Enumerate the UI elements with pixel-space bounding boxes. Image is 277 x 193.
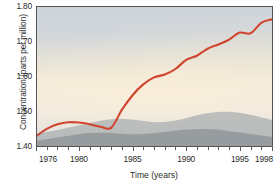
x-tick-mark — [229, 146, 230, 150]
x-tick-mark — [165, 146, 166, 150]
x-tick-mark — [261, 146, 262, 150]
x-tick-mark — [79, 146, 80, 151]
x-axis-ticks — [36, 146, 272, 152]
x-tick-label: 1980 — [70, 154, 88, 164]
axis-right-spine — [272, 6, 273, 147]
x-tick-mark — [240, 146, 241, 151]
series-line-path — [36, 19, 272, 136]
x-tick-label: 1976 — [39, 154, 57, 164]
x-tick-label: 1985 — [124, 154, 142, 164]
y-tick-label: 1.50 — [16, 106, 32, 116]
x-tick-mark — [186, 146, 187, 151]
x-axis-tick-labels: 197619801985199019951998 — [36, 154, 272, 168]
x-tick-label: 1998 — [255, 154, 273, 164]
axis-top-spine — [36, 6, 273, 7]
y-tick-label: 1.40 — [16, 141, 32, 151]
x-axis-title: Time (years) — [36, 170, 272, 180]
x-tick-mark — [197, 146, 198, 150]
y-tick-label: 1.60 — [16, 71, 32, 81]
x-tick-mark — [36, 146, 37, 151]
x-tick-label: 1990 — [177, 154, 195, 164]
y-tick-label: 1.80 — [16, 1, 32, 11]
x-tick-mark — [122, 146, 123, 150]
plot-area — [36, 6, 272, 146]
x-tick-mark — [251, 146, 252, 150]
x-tick-mark — [175, 146, 176, 150]
y-tick-label: 1.70 — [16, 36, 32, 46]
x-tick-mark — [208, 146, 209, 150]
x-tick-mark — [133, 146, 134, 151]
x-tick-label: 1995 — [231, 154, 249, 164]
x-tick-mark — [57, 146, 58, 150]
x-tick-mark — [68, 146, 69, 150]
y-axis-tick-labels: 1.401.501.601.701.80 — [0, 0, 36, 193]
x-tick-mark — [47, 146, 48, 150]
x-tick-mark — [100, 146, 101, 150]
axis-left-spine — [36, 6, 37, 147]
chart-figure: Concentration (parts per million) 1.401.… — [0, 0, 277, 193]
x-tick-mark — [90, 146, 91, 150]
x-tick-mark — [143, 146, 144, 150]
x-tick-mark — [272, 146, 273, 151]
x-tick-mark — [154, 146, 155, 150]
x-tick-mark — [218, 146, 219, 150]
data-series-line — [36, 6, 272, 146]
x-tick-mark — [111, 146, 112, 150]
